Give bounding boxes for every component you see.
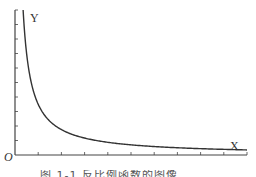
caption-text: 图 1-1 反比例函数的图像	[40, 170, 240, 177]
hyperbola-chart	[0, 0, 256, 177]
x-axis	[15, 152, 247, 155]
origin-label: O	[4, 150, 13, 165]
y-axis	[15, 10, 18, 155]
figure-caption: 图 1-1 反比例函数的图像	[40, 170, 240, 177]
x-axis-label: X	[230, 139, 239, 154]
y-axis-label: Y	[30, 11, 39, 26]
hyperbola-curve	[23, 10, 247, 150]
